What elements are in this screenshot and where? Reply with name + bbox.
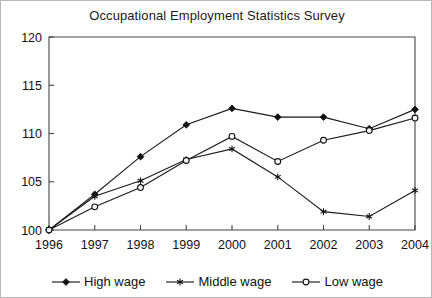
legend-marker-open-circle-icon [291, 275, 321, 289]
data-point [275, 159, 281, 165]
legend-label: Middle wage [198, 274, 271, 289]
data-point [138, 185, 144, 191]
data-point [412, 187, 418, 194]
x-axis: 199619971998199920002001200220032004 [35, 225, 429, 252]
data-point [138, 177, 144, 184]
chart-container: Occupational Employment Statistics Surve… [0, 0, 432, 298]
x-tick-label: 2002 [310, 238, 338, 252]
series-high-wage [46, 105, 419, 233]
x-tick-label: 1998 [127, 238, 155, 252]
x-tick-label: 1996 [35, 238, 63, 252]
legend-item[interactable]: Middle wage [165, 274, 271, 289]
data-point [275, 174, 281, 181]
data-point [92, 204, 98, 210]
x-tick-label: 2001 [264, 238, 292, 252]
x-tick-label: 2000 [218, 238, 246, 252]
legend-marker-filled-diamond-icon [51, 275, 81, 289]
data-point [320, 114, 327, 121]
data-point [229, 105, 236, 112]
data-point [183, 158, 189, 164]
x-tick-label: 1999 [172, 238, 200, 252]
data-series [46, 105, 419, 233]
y-tick-label: 120 [21, 31, 42, 45]
data-point [321, 137, 327, 143]
data-point [183, 121, 190, 128]
series-middle-wage [46, 146, 418, 234]
legend-marker-asterisk-icon [165, 275, 195, 289]
chart-legend: High wageMiddle wageLow wage [1, 274, 432, 289]
plot-area: 100105110115120 199619971998199920002001… [1, 1, 432, 298]
legend-label: Low wage [324, 274, 383, 289]
data-point [412, 106, 419, 113]
y-tick-label: 105 [21, 175, 42, 189]
y-tick-label: 110 [22, 127, 42, 141]
data-point [366, 128, 372, 134]
legend-item[interactable]: High wage [51, 274, 145, 289]
data-point [46, 227, 52, 233]
y-tick-label: 115 [22, 79, 42, 93]
data-point [229, 133, 235, 139]
y-tick-label: 100 [21, 224, 42, 238]
legend-item[interactable]: Low wage [291, 274, 383, 289]
x-tick-label: 2003 [355, 238, 383, 252]
x-tick-label: 2004 [401, 238, 429, 252]
data-point [274, 114, 281, 121]
legend-label: High wage [84, 274, 145, 289]
data-point [412, 115, 418, 121]
x-tick-label: 1997 [81, 238, 109, 252]
